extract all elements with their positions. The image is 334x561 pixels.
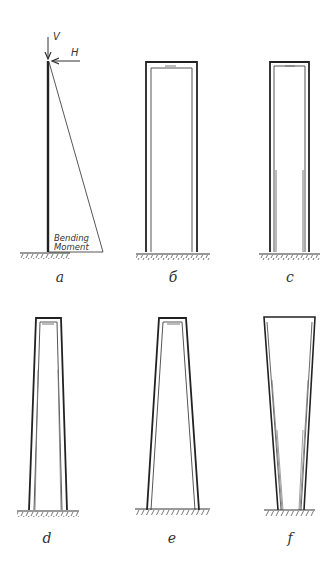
frame-f-outer	[264, 317, 315, 510]
panel-label-e: e	[168, 530, 176, 546]
frame-f-left-inner	[267, 322, 281, 510]
ground-hatch	[259, 255, 320, 260]
diagram-canvas: V H Bending Moment a б c d	[0, 0, 334, 561]
frame-c-inner	[274, 66, 305, 252]
frame-f-right-inner	[301, 322, 312, 510]
frame-d-inner	[34, 322, 62, 510]
bending-moment-diagram	[49, 62, 103, 252]
frame-b-inner	[151, 68, 192, 252]
frame-e-outer	[147, 318, 199, 510]
ground-hatch	[135, 510, 210, 515]
panel-label-a: a	[56, 269, 64, 285]
ground-hatch	[20, 254, 70, 259]
vertical-load-label: V	[53, 31, 61, 42]
panel-e: e	[135, 318, 210, 546]
panel-label-d: d	[43, 530, 52, 546]
panel-f: f	[264, 317, 315, 546]
panel-b: б	[136, 62, 210, 285]
bending-moment-label-line2: Moment	[54, 242, 89, 252]
panel-a: V H Bending Moment a	[20, 31, 103, 285]
frame-f-right-stiffener-1	[300, 380, 308, 510]
panel-label-c: c	[286, 269, 294, 285]
horizontal-load-label: H	[71, 47, 79, 58]
panel-c: c	[259, 62, 320, 285]
frame-d-left-stiffener	[35, 370, 38, 510]
ground-hatch	[17, 512, 79, 517]
panel-label-f: f	[286, 530, 295, 546]
ground-hatch	[264, 511, 315, 516]
ground-hatch	[136, 255, 210, 260]
panel-label-b: б	[169, 269, 178, 285]
frame-b-outer	[146, 62, 197, 252]
panel-d: d	[17, 318, 79, 546]
